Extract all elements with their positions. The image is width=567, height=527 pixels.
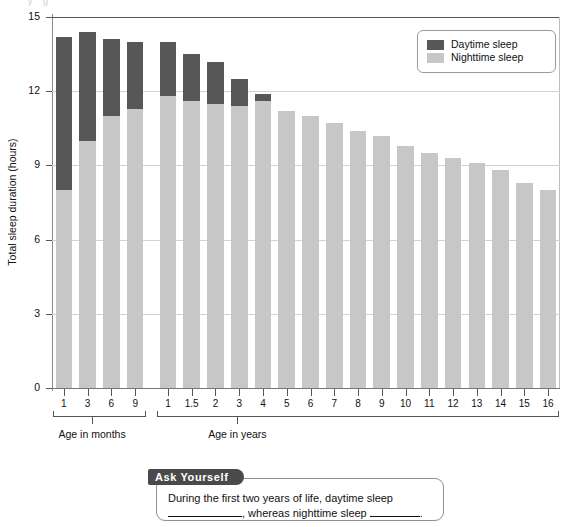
bar-segment-daytime (79, 32, 96, 141)
group-label-0: Age in months (59, 428, 126, 440)
bracket-stem (237, 416, 238, 424)
bracket-left-cap (53, 411, 54, 417)
bar-segment-nighttime (231, 106, 248, 388)
x-tick-mark-13 (477, 389, 478, 396)
group-label-1: Age in years (208, 428, 266, 440)
x-tick-label-19: 15 (519, 398, 530, 409)
bar-11 (421, 153, 438, 388)
group-bracket-1 (157, 416, 559, 426)
bar-segment-daytime (231, 79, 248, 106)
x-tick-mark-3 (239, 389, 240, 396)
bar-segment-nighttime (492, 170, 509, 388)
x-tick-mark-16 (548, 389, 549, 396)
bracket-line (157, 416, 559, 417)
bar-segment-nighttime (373, 136, 390, 388)
answer-blank-1 (168, 516, 242, 517)
bar-segment-nighttime (183, 101, 200, 388)
bar-segment-nighttime (445, 158, 462, 388)
x-tick-mark-14 (501, 389, 502, 396)
legend-item-nighttime: Nighttime sleep (427, 52, 547, 63)
x-tick-label-9: 5 (284, 398, 290, 409)
ask-text-part-2: , whereas nighttime sleep (242, 507, 367, 519)
x-tick-label-0: 1 (61, 398, 67, 409)
bar-segment-nighttime (103, 116, 120, 388)
bracket-stem (92, 416, 93, 424)
x-tick-mark-9 (135, 389, 136, 396)
ask-yourself-tag: Ask Yourself (148, 469, 244, 485)
legend-label-nighttime: Nighttime sleep (451, 52, 523, 63)
bar-14 (492, 170, 509, 388)
legend-item-daytime: Daytime sleep (427, 39, 547, 50)
y-tick-label-3: 3 (14, 307, 40, 319)
bar-15 (516, 183, 533, 388)
x-tick-label-12: 8 (355, 398, 361, 409)
x-tick-mark-5 (287, 389, 288, 396)
x-tick-mark-1 (168, 389, 169, 396)
top-cut-text: y g (28, 0, 52, 6)
bar-segment-nighttime (278, 111, 295, 388)
bar-5 (278, 111, 295, 388)
answer-blank-2 (370, 516, 420, 517)
bar-segment-nighttime (302, 116, 319, 388)
bar-4 (255, 94, 272, 388)
x-tick-mark-6 (111, 389, 112, 396)
bar-2 (207, 62, 224, 388)
x-tick-label-10: 6 (308, 398, 314, 409)
bar-segment-nighttime (160, 96, 177, 388)
x-tick-label-2: 6 (109, 398, 115, 409)
x-tick-label-8: 4 (260, 398, 266, 409)
y-tick-label-0: 0 (14, 381, 40, 393)
x-tick-mark-4 (263, 389, 264, 396)
bar-6 (103, 39, 120, 388)
bar-8 (350, 131, 367, 388)
bar-1.5 (183, 54, 200, 388)
bar-segment-nighttime (127, 109, 144, 388)
y-tick-label-15: 15 (14, 10, 40, 22)
x-tick-mark-1 (64, 389, 65, 396)
bar-segment-nighttime (56, 190, 73, 388)
x-tick-mark-2 (215, 389, 216, 396)
x-tick-mark-11 (429, 389, 430, 396)
y-axis-label: Total sleep duration (hours) (6, 22, 18, 382)
bar-1 (160, 42, 177, 388)
group-bracket-0 (53, 416, 146, 426)
bar-segment-nighttime (255, 101, 272, 388)
bar-9 (127, 42, 144, 388)
bar-segment-nighttime (326, 123, 343, 388)
y-tick-label-9: 9 (14, 158, 40, 170)
x-tick-label-3: 9 (132, 398, 138, 409)
x-tick-label-17: 13 (471, 398, 482, 409)
bar-segment-daytime (160, 42, 177, 96)
bar-7 (326, 123, 343, 388)
bar-segment-nighttime (421, 153, 438, 388)
x-tick-mark-12 (453, 389, 454, 396)
ask-yourself-callout: Ask Yourself During the first two years … (148, 469, 444, 521)
bar-13 (469, 163, 486, 388)
bar-segment-nighttime (540, 190, 557, 388)
x-tick-mark-15 (524, 389, 525, 396)
bar-12 (445, 158, 462, 388)
x-tick-label-11: 7 (331, 398, 337, 409)
bar-segment-nighttime (397, 146, 414, 388)
bar-segment-nighttime (516, 183, 533, 388)
x-tick-label-13: 9 (379, 398, 385, 409)
bar-segment-daytime (255, 94, 272, 101)
bar-segment-nighttime (207, 104, 224, 388)
bar-segment-nighttime (350, 131, 367, 388)
x-tick-label-15: 11 (424, 398, 434, 409)
ask-text-part-1: During the first two years of life, dayt… (168, 492, 393, 504)
bracket-right-cap (558, 411, 559, 417)
legend: Daytime sleep Nighttime sleep (417, 30, 556, 73)
bar-segment-nighttime (469, 163, 486, 388)
bar-1 (56, 37, 73, 388)
bracket-right-cap (145, 411, 146, 417)
bar-16 (540, 190, 557, 388)
bar-segment-daytime (183, 54, 200, 101)
bar-3 (79, 32, 96, 388)
legend-swatch-daytime-icon (427, 40, 444, 50)
x-tick-label-20: 16 (543, 398, 554, 409)
bar-segment-nighttime (79, 141, 96, 388)
bracket-left-cap (157, 411, 158, 417)
bracket-line (53, 416, 146, 417)
x-tick-mark-7 (334, 389, 335, 396)
